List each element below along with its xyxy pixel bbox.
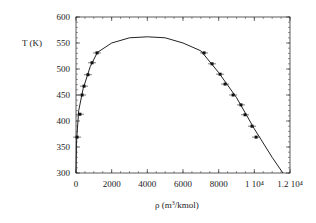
svg-text:1.2 10⁴: 1.2 10⁴	[277, 179, 303, 189]
y-axis-label: T (K)	[22, 38, 42, 48]
svg-text:350: 350	[57, 142, 71, 152]
svg-text:300: 300	[57, 168, 71, 178]
chart: 020004000600080001 10⁴1.2 10⁴30035040045…	[0, 0, 316, 223]
data-points	[73, 51, 260, 138]
svg-text:1 10⁴: 1 10⁴	[245, 179, 264, 189]
svg-text:600: 600	[57, 12, 71, 22]
svg-text:550: 550	[57, 38, 71, 48]
svg-text:6000: 6000	[174, 179, 193, 189]
svg-text:0: 0	[74, 179, 79, 189]
fit-curve	[76, 37, 283, 173]
svg-text:450: 450	[57, 90, 71, 100]
svg-text:2000: 2000	[103, 179, 122, 189]
plot-frame	[76, 17, 290, 173]
svg-text:400: 400	[57, 116, 71, 126]
svg-text:4000: 4000	[138, 179, 157, 189]
svg-text:500: 500	[57, 64, 71, 74]
x-axis-label: ρ (m3/kmol)	[155, 200, 199, 210]
svg-text:8000: 8000	[210, 179, 229, 189]
